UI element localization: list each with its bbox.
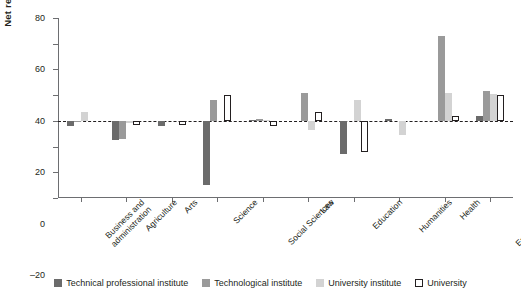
net-return-bar-chart: Net return 806040200–20–40–60 Business a… <box>0 0 521 300</box>
legend-item[interactable]: Technical professional institute <box>54 278 188 288</box>
y-axis-tick-label: 80 <box>35 13 45 23</box>
bar <box>81 112 88 121</box>
bar <box>385 119 392 121</box>
bar-group <box>294 18 322 198</box>
bar-group <box>385 18 413 198</box>
bar <box>74 121 81 122</box>
bar <box>210 100 217 121</box>
y-axis-tick-label: 60 <box>35 64 45 74</box>
bar <box>158 121 165 126</box>
legend-swatch <box>54 279 62 287</box>
bar <box>490 94 497 121</box>
y-axis-tick: 60 <box>53 44 58 45</box>
bar <box>249 120 256 121</box>
y-axis-tick: 20 <box>53 95 58 96</box>
y-axis-title-container: Net return <box>0 0 24 190</box>
y-axis-line <box>58 18 59 198</box>
y-axis-tick-label: 40 <box>35 116 45 126</box>
bar <box>438 36 445 121</box>
x-axis-tick-label: Humanities <box>418 198 455 235</box>
x-axis-tick-label-line: Health <box>458 198 482 222</box>
chart-legend: Technical professional instituteTechnolo… <box>0 278 521 288</box>
bar <box>399 121 406 135</box>
bar <box>112 121 119 140</box>
bar <box>354 100 361 121</box>
x-axis-tick-label-line: Agriculture <box>144 198 179 233</box>
bar <box>315 112 322 121</box>
legend-item[interactable]: University <box>415 278 467 288</box>
y-axis-tick: –40 <box>53 172 58 173</box>
legend-label: University institute <box>328 278 401 288</box>
bar <box>308 121 315 130</box>
bar <box>67 121 74 126</box>
bar <box>126 121 133 123</box>
y-axis-tick: –20 <box>53 147 58 148</box>
y-axis-tick: 80 <box>53 18 58 19</box>
bar <box>497 95 504 121</box>
bar-group <box>158 18 186 198</box>
bar <box>119 121 126 139</box>
x-axis-tick-label: Science <box>232 198 260 226</box>
y-axis-tick-label: 0 <box>40 219 45 229</box>
legend-label: Technical professional institute <box>66 278 188 288</box>
bar <box>203 121 210 185</box>
x-axis-tick-label-line: Education <box>371 198 404 231</box>
x-axis-tick-label-line: Arts <box>182 198 199 215</box>
bar-group <box>67 18 95 198</box>
bar <box>476 116 483 121</box>
legend-swatch <box>415 279 423 287</box>
y-axis-tick-label: 20 <box>35 167 45 177</box>
x-axis-tick-label-line: Humanities <box>418 198 455 235</box>
legend-label: Technological institute <box>214 278 302 288</box>
x-axis-tick-label: Agriculture <box>144 198 179 233</box>
bar <box>263 120 270 121</box>
legend-swatch <box>202 279 210 287</box>
bar <box>256 119 263 121</box>
y-axis-title: Net return <box>2 0 13 58</box>
bar <box>301 93 308 121</box>
bar <box>452 116 459 121</box>
bar-group <box>431 18 459 198</box>
bar <box>270 121 277 126</box>
bar <box>361 121 368 152</box>
bar <box>224 95 231 121</box>
bar <box>483 91 490 121</box>
y-axis-tick: 40 <box>53 69 58 70</box>
bar <box>445 93 452 121</box>
bar-group <box>203 18 231 198</box>
bar-group <box>249 18 277 198</box>
x-axis-tick-labels: Business andadministrationAgricultureArt… <box>58 198 513 270</box>
legend-swatch <box>316 279 324 287</box>
bar-group <box>476 18 504 198</box>
bar <box>179 121 186 125</box>
legend-label: University <box>427 278 467 288</box>
x-axis-tick-label: Engineering andtechnology <box>514 198 521 255</box>
bar <box>133 121 140 125</box>
legend-item[interactable]: University institute <box>316 278 401 288</box>
bar-group <box>112 18 140 198</box>
x-axis-tick-label: Arts <box>182 198 199 215</box>
bar-group <box>340 18 368 198</box>
x-axis-tick-label: Education <box>371 198 404 231</box>
bar <box>340 121 347 154</box>
x-axis-tick-label: Health <box>458 198 482 222</box>
x-axis-tick-label-line: Engineering and <box>514 198 521 249</box>
legend-item[interactable]: Technological institute <box>202 278 302 288</box>
x-axis-tick-label-line: Science <box>232 198 260 226</box>
plot-area: 806040200–20–40–60 <box>58 18 513 198</box>
